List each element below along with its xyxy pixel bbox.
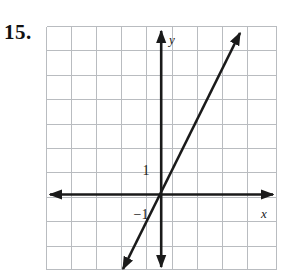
- x-axis-label: x: [260, 206, 267, 221]
- graph-canvas: 1 −1 y x: [46, 26, 277, 270]
- worksheet-problem-graph: 15.: [0, 0, 289, 277]
- y-tick-label-positive-one: 1: [143, 163, 150, 178]
- coordinate-grid-graph: 1 −1 y x: [46, 26, 277, 270]
- y-axis-label: y: [167, 32, 175, 47]
- y-tick-label-negative-one: −1: [134, 207, 149, 222]
- problem-number: 15.: [4, 22, 32, 43]
